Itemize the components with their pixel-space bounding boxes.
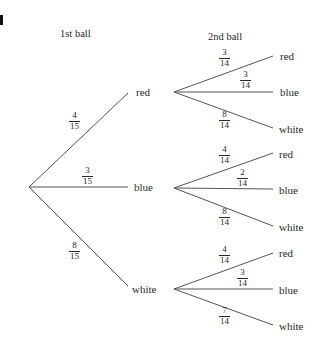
node-2-white-red: red [279, 248, 293, 259]
prob-2-red-red: 314 [219, 48, 230, 68]
node-2-red-red: red [280, 51, 294, 62]
node-2-red-blue: blue [280, 87, 299, 98]
prob-1-red: 415 [69, 111, 80, 131]
prob-1-white: 815 [69, 241, 80, 261]
node-2-blue-white: white [279, 222, 303, 233]
prob-2-white-blue: 314 [237, 268, 248, 288]
prob-2-blue-red: 414 [219, 145, 230, 165]
branch-2-blue-blue [174, 188, 273, 189]
prob-2-blue-white: 814 [219, 207, 230, 227]
node-2-blue-red: red [279, 149, 293, 160]
node-1-red: red [136, 87, 150, 98]
branch-1-white [29, 187, 128, 286]
node-2-red-white: white [279, 124, 303, 135]
node-1-blue: blue [134, 182, 153, 193]
prob-1-blue: 315 [82, 166, 93, 186]
node-2-blue-blue: blue [279, 185, 298, 196]
prob-2-white-red: 414 [219, 245, 230, 265]
prob-2-blue-blue: 214 [237, 168, 248, 188]
probability-tree-lines [0, 0, 322, 351]
node-1-white: white [132, 284, 156, 295]
node-2-white-blue: blue [279, 285, 298, 296]
prob-2-red-blue: 314 [240, 70, 251, 90]
header-first-ball: 1st ball [60, 28, 91, 39]
branch-1-red [29, 93, 128, 187]
prob-2-red-white: 814 [219, 110, 230, 130]
prob-2-white-white: 714 [219, 306, 230, 326]
header-second-ball: 2nd ball [208, 31, 242, 42]
node-2-white-white: white [279, 321, 303, 332]
